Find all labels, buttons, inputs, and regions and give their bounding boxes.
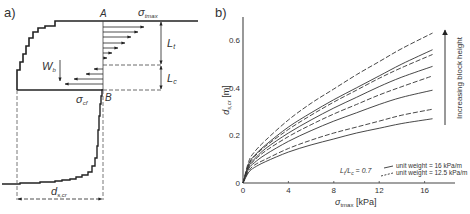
point-a-label: A: [99, 8, 107, 19]
data-curves: [243, 33, 433, 183]
x-tick-label: 12: [375, 186, 384, 195]
lt-label: Lt: [167, 37, 176, 50]
curve-dashed: [243, 33, 433, 183]
panel-b-label: b): [215, 5, 227, 20]
figure: a) A B: [0, 0, 470, 214]
point-b-label: B: [105, 92, 112, 103]
x-tick-label: 8: [332, 186, 337, 195]
y-tick-label: 0.2: [229, 131, 241, 140]
x-tick-label: 16: [420, 186, 429, 195]
x-tick-label: 4: [286, 186, 291, 195]
legend: unit weight = 16 kPa/m unit weight = 12.…: [381, 162, 467, 177]
ratio-annotation: Lt/Lc = 0.7: [340, 167, 372, 176]
x-tick-label: 0: [241, 186, 246, 195]
compression-arrows: [65, 69, 103, 84]
panel-a: a) A B: [2, 5, 198, 200]
lc-label: Lc: [167, 72, 177, 85]
x-axis-label: σtmax [kPa]: [335, 197, 376, 208]
y-tick-label: 0.6: [229, 36, 241, 45]
legend-item-dashed: unit weight = 12.5 kPa/m: [381, 169, 467, 177]
sigma-cf-label: σcf: [76, 93, 89, 106]
sigma-tmax-label: σtmax: [138, 6, 159, 19]
panel-a-label: a): [4, 5, 16, 20]
wb-label: Wb: [42, 60, 56, 73]
dscr-label: ds,cr: [51, 185, 68, 198]
y-axis-label: ds,cr [m]: [221, 85, 232, 115]
svg-text:unit weight = 12.5 kPa/m: unit weight = 12.5 kPa/m: [396, 169, 467, 177]
panel-b: b) 00.20.40.6 0481216 ds,cr [m] σtmax [k…: [215, 5, 467, 208]
tension-arrows: [103, 27, 144, 58]
increasing-height-label: Increasing block height: [455, 36, 464, 119]
